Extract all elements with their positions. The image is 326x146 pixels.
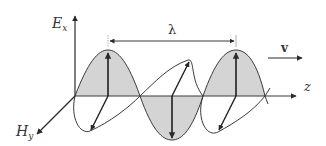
h-axis xyxy=(37,96,75,134)
z-axis-label: z xyxy=(303,79,311,94)
h-vector-1 xyxy=(91,96,108,130)
wavelength-label: λ xyxy=(168,22,176,37)
velocity-label: v xyxy=(280,41,289,55)
em-wave-diagram: Ex z Hy λ v xyxy=(0,0,326,146)
h-axis-label: Hy xyxy=(15,123,34,141)
h-vector-3 xyxy=(219,96,236,130)
h-vector-2 xyxy=(172,62,189,96)
e-axis-label: Ex xyxy=(51,15,67,33)
